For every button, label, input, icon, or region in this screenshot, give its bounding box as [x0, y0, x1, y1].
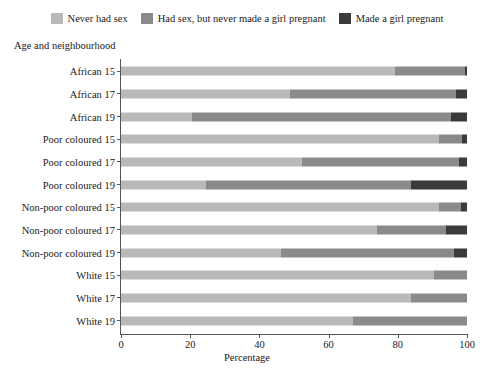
x-axis-tick-label: 100 — [459, 339, 475, 350]
stacked-bar[interactable] — [121, 293, 467, 302]
bar-row[interactable]: African 15 — [121, 60, 467, 83]
bar-segment[interactable] — [121, 203, 439, 212]
bar-row[interactable]: Non-poor coloured 19 — [121, 241, 467, 264]
bar-row[interactable]: Non-poor coloured 15 — [121, 196, 467, 219]
plot-area: African 15African 17African 19Poor colou… — [121, 60, 467, 332]
bar-segment[interactable] — [377, 225, 446, 234]
x-axis-title: Percentage — [0, 352, 494, 363]
bar-segment[interactable] — [411, 293, 467, 302]
legend-item[interactable]: Made a girl pregnant — [339, 13, 444, 24]
bar-rows: African 15African 17African 19Poor colou… — [121, 60, 467, 332]
legend-label: Had sex, but never made a girl pregnant — [158, 13, 326, 24]
legend-swatch-had-sex-no-pregnancy — [141, 13, 153, 24]
bar-row[interactable]: Non-poor coloured 17 — [121, 219, 467, 242]
bar-row[interactable]: White 17 — [121, 287, 467, 310]
stacked-bar[interactable] — [121, 89, 467, 98]
x-axis-tick-label: 20 — [185, 339, 196, 350]
legend-label: Never had sex — [68, 13, 128, 24]
x-axis-tick — [329, 334, 330, 338]
x-axis-tick — [259, 334, 260, 338]
y-axis-tick-label: Non-poor coloured 19 — [22, 247, 115, 258]
bar-row[interactable]: African 19 — [121, 105, 467, 128]
bar-segment[interactable] — [121, 135, 439, 144]
y-axis-tick-label: Non-poor coloured 15 — [22, 202, 115, 213]
x-axis-tick — [398, 334, 399, 338]
bar-segment[interactable] — [434, 271, 467, 280]
bar-segment[interactable] — [456, 89, 467, 98]
y-axis-tick-label: African 19 — [70, 111, 115, 122]
bar-segment[interactable] — [395, 67, 465, 76]
y-axis-tick-label: Poor coloured 19 — [43, 179, 115, 190]
chart-legend: Never had sexHad sex, but never made a g… — [0, 13, 494, 24]
bar-segment[interactable] — [206, 180, 411, 189]
x-axis-tick — [121, 334, 122, 338]
stacked-bar[interactable] — [121, 112, 467, 121]
stacked-bar[interactable] — [121, 157, 467, 166]
legend-label: Made a girl pregnant — [356, 13, 444, 24]
bar-segment[interactable] — [439, 203, 461, 212]
bar-row[interactable]: White 19 — [121, 309, 467, 332]
stacked-bar[interactable] — [121, 225, 467, 234]
bar-segment[interactable] — [121, 157, 302, 166]
bar-segment[interactable] — [121, 225, 377, 234]
y-axis-tick-label: White 15 — [76, 270, 115, 281]
legend-item[interactable]: Never had sex — [51, 13, 128, 24]
bar-segment[interactable] — [192, 112, 451, 121]
bar-segment[interactable] — [461, 203, 467, 212]
stacked-bar[interactable] — [121, 67, 467, 76]
stacked-bar[interactable] — [121, 248, 467, 257]
bar-row[interactable]: Poor coloured 15 — [121, 128, 467, 151]
bar-segment[interactable] — [353, 316, 467, 325]
x-axis-tick — [467, 334, 468, 338]
stacked-bar[interactable] — [121, 180, 467, 189]
bar-segment[interactable] — [290, 89, 456, 98]
bar-segment[interactable] — [411, 180, 467, 189]
bar-segment[interactable] — [121, 67, 395, 76]
y-axis-title: Age and neighbourhood — [14, 40, 115, 51]
y-axis-tick-label: White 19 — [76, 315, 115, 326]
y-axis-tick-label: Poor coloured 17 — [43, 156, 115, 167]
x-axis-tick — [190, 334, 191, 338]
bar-segment[interactable] — [121, 180, 206, 189]
legend-item[interactable]: Had sex, but never made a girl pregnant — [141, 13, 326, 24]
x-axis-tick-label: 40 — [254, 339, 265, 350]
legend-swatch-made-pregnant — [339, 13, 351, 24]
bar-row[interactable]: African 17 — [121, 83, 467, 106]
y-axis-tick-label: African 17 — [70, 88, 115, 99]
stacked-bar[interactable] — [121, 316, 467, 325]
y-axis-tick-label: African 15 — [70, 66, 115, 77]
x-axis-tick-label: 0 — [118, 339, 123, 350]
stacked-bar[interactable] — [121, 271, 467, 280]
y-axis-tick-label: Poor coloured 15 — [43, 134, 115, 145]
bar-segment[interactable] — [121, 112, 192, 121]
bar-segment[interactable] — [462, 135, 466, 144]
bar-segment[interactable] — [465, 67, 467, 76]
bar-segment[interactable] — [121, 271, 434, 280]
bar-segment[interactable] — [459, 157, 467, 166]
y-axis-tick-label: Non-poor coloured 17 — [22, 224, 115, 235]
x-axis-tick-label: 60 — [323, 339, 334, 350]
bar-row[interactable]: Poor coloured 17 — [121, 151, 467, 174]
stacked-bar[interactable] — [121, 135, 467, 144]
y-axis-tick-label: White 17 — [76, 292, 115, 303]
x-axis-tick-label: 80 — [393, 339, 404, 350]
bar-segment[interactable] — [446, 225, 467, 234]
bar-segment[interactable] — [439, 135, 462, 144]
bar-segment[interactable] — [121, 293, 411, 302]
stacked-bar[interactable] — [121, 203, 467, 212]
bar-segment[interactable] — [121, 316, 353, 325]
legend-swatch-never-had-sex — [51, 13, 63, 24]
bar-row[interactable]: White 15 — [121, 264, 467, 287]
bar-segment[interactable] — [121, 248, 281, 257]
bar-segment[interactable] — [302, 157, 459, 166]
bar-segment[interactable] — [454, 248, 467, 257]
bar-segment[interactable] — [281, 248, 454, 257]
bar-segment[interactable] — [121, 89, 290, 98]
bar-row[interactable]: Poor coloured 19 — [121, 173, 467, 196]
stacked-bar-chart: Never had sexHad sex, but never made a g… — [0, 0, 494, 380]
bar-segment[interactable] — [451, 112, 467, 121]
